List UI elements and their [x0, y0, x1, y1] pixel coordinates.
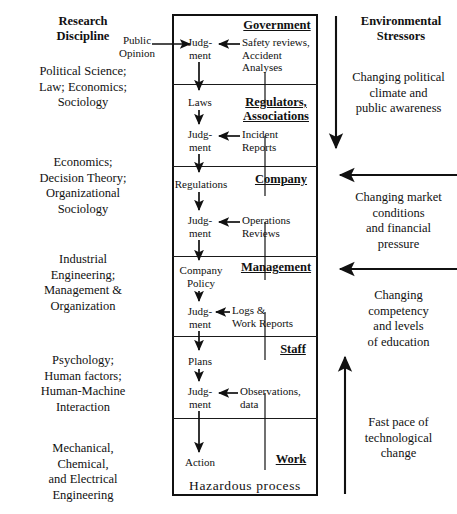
- judgment-line1: Judg-: [176, 214, 224, 227]
- public-opinion-label: Public Opinion: [110, 34, 164, 59]
- research-discipline-item-4: Psychology; Human factors; Human-Machine…: [4, 353, 162, 415]
- feedback-management-line1: Logs &: [232, 304, 293, 317]
- flow-output-action: Action: [172, 456, 228, 469]
- level-divider-government-regulators: [172, 84, 318, 85]
- level-divider-management-staff: [172, 336, 318, 337]
- environmental-stressor-item-4: Fast pace of technological change: [340, 415, 457, 462]
- judgment-node-government: Judg- ment: [176, 36, 224, 61]
- level-divider-regulators-company: [172, 166, 318, 167]
- judgment-line2: ment: [176, 398, 224, 411]
- right-column-heading-line1: Environmental: [345, 14, 457, 29]
- level-title-company: Company: [248, 172, 314, 186]
- flow-output-company-policy-line1: Company: [170, 264, 232, 277]
- feedback-staff-line1: Observations,: [240, 385, 301, 398]
- level-title-regulators-line2: Associations: [236, 109, 316, 123]
- level-title-regulators: Regulators, Associations: [236, 95, 316, 123]
- public-opinion-line1: Public: [110, 34, 164, 47]
- left-column-heading-line1: Research: [8, 14, 158, 29]
- feedback-government-line2: Accident: [242, 49, 310, 62]
- feedback-management: Logs & Work Reports: [232, 304, 293, 329]
- research-discipline-item-1: Political Science; Law; Economics; Socio…: [4, 64, 162, 111]
- level-divider-company-management: [172, 256, 318, 257]
- research-discipline-item-3: Industrial Engineering; Management & Org…: [4, 252, 162, 314]
- judgment-line1: Judg-: [176, 128, 224, 141]
- flow-output-regulations: Regulations: [168, 178, 234, 191]
- judgment-node-company: Judg- ment: [176, 214, 224, 239]
- feedback-company: Operations Reviews: [242, 214, 290, 239]
- feedback-company-line2: Reviews: [242, 227, 290, 240]
- level-title-work: Work: [268, 452, 314, 466]
- feedback-government-line3: Analyses: [242, 61, 310, 74]
- feedback-regulators: Incident Reports: [242, 128, 278, 153]
- feedback-government-line1: Safety reviews,: [242, 36, 310, 49]
- judgment-line1: Judg-: [176, 385, 224, 398]
- judgment-node-staff: Judg- ment: [176, 385, 224, 410]
- judgment-line2: ment: [176, 318, 224, 331]
- judgment-node-management: Judg- ment: [176, 305, 224, 330]
- judgment-line2: ment: [176, 227, 224, 240]
- feedback-staff-line2: data: [240, 398, 301, 411]
- judgment-line1: Judg-: [176, 36, 224, 49]
- level-title-management: Management: [236, 260, 316, 274]
- feedback-regulators-line2: Reports: [242, 141, 278, 154]
- research-discipline-item-5: Mechanical, Chemical, and Electrical Eng…: [4, 441, 162, 503]
- judgment-line1: Judg-: [176, 305, 224, 318]
- feedback-staff: Observations, data: [240, 385, 301, 410]
- hazardous-process-label: Hazardous process: [172, 478, 318, 494]
- judgment-node-regulators: Judg- ment: [176, 128, 224, 153]
- research-discipline-item-2: Economics; Decision Theory; Organization…: [4, 155, 162, 217]
- judgment-line2: ment: [176, 141, 224, 154]
- environmental-stressor-item-3: Changing competency and levels of educat…: [340, 288, 457, 350]
- flow-output-company-policy-line2: Policy: [170, 277, 232, 290]
- level-title-government: Government: [240, 18, 314, 32]
- level-divider-staff-work: [172, 418, 318, 419]
- feedback-company-line1: Operations: [242, 214, 290, 227]
- feedback-management-line2: Work Reports: [232, 317, 293, 330]
- right-column-heading: Environmental Stressors: [345, 14, 457, 44]
- right-column-heading-line2: Stressors: [345, 29, 457, 44]
- diagram-canvas: Research Discipline Political Science; L…: [0, 0, 457, 514]
- flow-output-company-policy: Company Policy: [170, 264, 232, 289]
- feedback-government: Safety reviews, Accident Analyses: [242, 36, 310, 74]
- level-title-regulators-line1: Regulators,: [236, 95, 316, 109]
- environmental-stressor-item-1: Changing political climate and public aw…: [340, 70, 457, 117]
- environmental-stressor-item-2: Changing market conditions and financial…: [340, 190, 457, 252]
- feedback-regulators-line1: Incident: [242, 128, 278, 141]
- public-opinion-line2: Opinion: [110, 47, 164, 60]
- level-title-staff: Staff: [272, 342, 314, 356]
- sociotechnical-system-box: [172, 14, 318, 496]
- flow-output-laws: Laws: [176, 96, 224, 109]
- flow-output-plans: Plans: [176, 355, 224, 368]
- judgment-line2: ment: [176, 49, 224, 62]
